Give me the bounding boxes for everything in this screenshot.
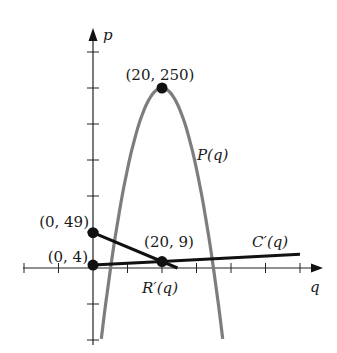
y-axis-label: p xyxy=(103,26,113,44)
r-intercept-label: (0, 49) xyxy=(39,213,89,231)
Rprime-label: R′(q) xyxy=(141,279,178,297)
c-intercept-label: (0, 4) xyxy=(48,248,88,266)
Cprime-label: C′(q) xyxy=(252,233,288,251)
P-curve-label: P(q) xyxy=(196,146,229,164)
point-dot-icon xyxy=(157,256,168,267)
x-axis-arrow-icon xyxy=(311,264,323,273)
point-dot-icon xyxy=(157,83,168,94)
vertex-label: (20, 250) xyxy=(126,66,195,84)
intersection-label: (20, 9) xyxy=(144,233,194,251)
point-dot-icon xyxy=(88,227,99,238)
x-axis-label: q xyxy=(310,278,320,296)
y-axis-arrow-icon xyxy=(89,28,98,41)
profit-marginal-chart: p q (20, 250) P(q) (0, 49) (0, 4) (20, 9… xyxy=(0,0,337,353)
point-dot-icon xyxy=(88,260,99,271)
profit-curve-P xyxy=(101,88,222,339)
